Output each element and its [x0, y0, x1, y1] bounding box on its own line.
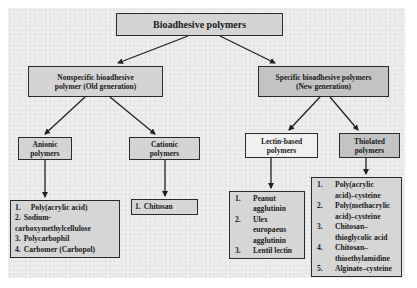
node-specific-bioadhesive: Specific bioadhesive polymers (New gener… — [258, 66, 389, 97]
node-label-line1: Cationic — [151, 140, 178, 149]
list-item: thioglycolic acid — [317, 233, 398, 244]
thiolated-polymers-list: 1.Poly(acrylic acid)–cysteine 2.Poly(met… — [311, 177, 402, 277]
list-item: 3.Chitosan– — [317, 222, 398, 233]
item-text: Carbomer (Carbopol) — [24, 245, 95, 255]
item-number — [317, 212, 335, 223]
item-number: 2. — [317, 201, 335, 212]
node-label-line2: polymer (Old generation) — [55, 82, 137, 91]
list-item: agglutinin — [235, 204, 300, 214]
node-label-line2: polymers — [150, 149, 180, 158]
item-number: 3. — [235, 246, 253, 256]
node-label: Bioadhesive polymers — [153, 19, 246, 31]
item-text: agglutinin — [253, 236, 286, 246]
node-anionic-polymers: Anionic polymers — [18, 137, 72, 160]
item-number: 5. — [317, 264, 335, 275]
list-item: 2.Poly(methacrylic — [317, 201, 398, 212]
item-text: Chitosan– — [335, 243, 368, 254]
node-label-line1: Nonspecific bioadhesive — [57, 73, 133, 82]
item-text: Poly(acrylic acid) — [31, 203, 88, 213]
list-item: acid)–cysteine — [317, 191, 398, 202]
item-number: 3. — [317, 222, 335, 233]
list-item: 5.Alginate–cysteine — [317, 264, 398, 275]
list-item: 1.Poly(acrylic — [317, 180, 398, 191]
list-item: 4.Chitosan– — [317, 243, 398, 254]
node-label-line2: (New generation) — [296, 82, 351, 91]
node-label-line1: Lectin-based — [261, 137, 302, 146]
item-number — [235, 225, 253, 235]
item-number: 4. — [317, 243, 335, 254]
list-item: 2.Sodium- — [15, 213, 115, 223]
item-number: 1. — [317, 180, 335, 191]
item-text: Sodium- — [24, 213, 51, 223]
list-item: carboxymethylcellulose — [15, 224, 115, 234]
list-item: 3.Polycarbophil — [15, 234, 115, 244]
node-label-line2: polymers — [355, 146, 385, 155]
item-text: thioglycolic acid — [335, 233, 388, 244]
list-item: acid)–cysteine — [317, 212, 398, 223]
item-number — [317, 233, 335, 244]
lectin-based-polymers-list: 1.Peanut agglutinin 2.Ulex europaeus agg… — [229, 191, 305, 259]
item-text: Lentil lectin — [253, 246, 292, 256]
item-text: Alginate–cysteine — [335, 264, 392, 275]
item-number: 2. — [15, 213, 21, 223]
item-text: Peanut — [253, 194, 276, 204]
item-text: Polycarbophil — [24, 234, 70, 244]
item-text: carboxymethylcellulose — [15, 224, 91, 234]
node-nonspecific-bioadhesive: Nonspecific bioadhesive polymer (Old gen… — [28, 66, 163, 97]
item-number — [235, 236, 253, 246]
node-cationic-polymers: Cationic polymers — [129, 137, 200, 160]
item-number: 1. — [15, 203, 21, 213]
list-item: 1.Poly(acrylic acid) — [15, 203, 115, 213]
cationic-polymers-list: 1.Chitosan — [131, 199, 198, 215]
item-text: acid)–cysteine — [335, 191, 381, 202]
node-label-line1: Thiolated — [354, 137, 385, 146]
node-thiolated-polymers: Thiolated polymers — [339, 133, 400, 158]
item-text: acid)–cysteine — [335, 212, 381, 223]
item-number — [317, 254, 335, 265]
node-label-line2: polymers — [267, 146, 297, 155]
list-item: 3.Lentil lectin — [235, 246, 300, 256]
item-text: Ulex — [253, 215, 268, 225]
list-item: europaeus — [235, 225, 300, 235]
item-text: Chitosan– — [335, 222, 368, 233]
list-item: agglutinin — [235, 236, 300, 246]
item-number: 2. — [235, 215, 253, 225]
item-number: 4. — [15, 245, 21, 255]
list-item: 1.Chitosan — [135, 202, 194, 212]
node-bioadhesive-polymers: Bioadhesive polymers — [116, 13, 283, 36]
list-item: thioethylamidine — [317, 254, 398, 265]
item-text: Poly(acrylic — [335, 180, 374, 191]
node-label-line2: polymers — [30, 149, 60, 158]
list-item: 2.Ulex — [235, 215, 300, 225]
node-label-line1: Specific bioadhesive polymers — [276, 73, 372, 82]
item-text: thioethylamidine — [335, 254, 390, 265]
item-text: agglutinin — [253, 204, 286, 214]
item-number: 3. — [15, 234, 21, 244]
item-number — [317, 191, 335, 202]
list-item: 1.Peanut — [235, 194, 300, 204]
item-number: 1. — [135, 202, 141, 212]
item-number: 1. — [235, 194, 253, 204]
item-number — [235, 204, 253, 214]
node-label-line1: Anionic — [32, 140, 57, 149]
anionic-polymers-list: 1.Poly(acrylic acid) 2.Sodium- carboxyme… — [10, 200, 120, 258]
list-item: 4.Carbomer (Carbopol) — [15, 245, 115, 255]
item-text: Poly(methacrylic — [335, 201, 390, 212]
item-text: europaeus — [253, 225, 286, 235]
item-text: Chitosan — [144, 202, 173, 212]
node-lectin-based-polymers: Lectin-based polymers — [245, 133, 318, 158]
